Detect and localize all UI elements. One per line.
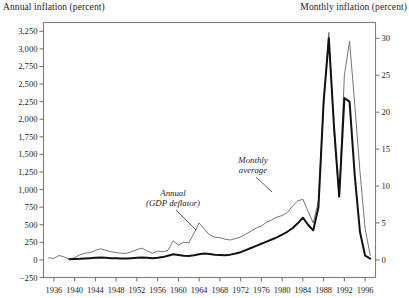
x-tick-label: 1960	[170, 286, 187, 295]
x-axis-ticks: 1936194019441948195219561960196419681972…	[46, 278, 374, 295]
x-tick-label: 1956	[149, 286, 166, 295]
x-tick-label: 1944	[87, 286, 105, 295]
annotation-annual-line2: (GDP deflator)	[146, 198, 200, 208]
x-tick-label: 1976	[253, 286, 270, 295]
x-tick-label: 1988	[315, 286, 332, 295]
right-axis-ticks: 051015202530	[376, 33, 391, 265]
left-tick-label: 2,250	[18, 97, 37, 107]
inflation-chart-figure: Annual inflation (percent) Monthly infla…	[0, 0, 409, 298]
right-tick-label: 0	[382, 255, 386, 265]
left-tick-label: 1,000	[18, 185, 37, 195]
left-tick-label: 1,250	[18, 167, 37, 177]
left-tick-label: 2,750	[18, 61, 37, 71]
x-tick-label: 1952	[129, 286, 146, 295]
right-tick-label: 10	[382, 181, 391, 191]
x-tick-label: 1936	[46, 286, 63, 295]
x-tick-label: 1980	[274, 286, 291, 295]
annotation-annual-line1: Annual	[159, 188, 186, 198]
right-tick-label: 25	[382, 70, 391, 80]
left-axis-ticks: −25002505007501,0001,2501,5001,7502,0002…	[18, 26, 43, 282]
right-tick-label: 5	[382, 218, 386, 228]
left-tick-label: 3,000	[18, 44, 37, 54]
x-tick-label: 1984	[295, 286, 313, 295]
x-tick-label: 1972	[232, 286, 249, 295]
plot-frame	[44, 23, 376, 278]
left-tick-label: 750	[25, 202, 38, 212]
x-tick-label: 1968	[212, 286, 229, 295]
annotation-annual-leader-line	[176, 210, 196, 230]
annotation-monthly-line1: Monthly	[237, 155, 267, 165]
x-tick-label: 1996	[357, 286, 374, 295]
left-tick-label: 2,500	[18, 79, 37, 89]
left-tick-label: −250	[20, 273, 38, 283]
annotation-monthly-leader-line	[256, 177, 272, 192]
x-tick-label: 1992	[336, 286, 353, 295]
right-tick-label: 15	[382, 144, 391, 154]
left-tick-label: 2,000	[18, 114, 37, 124]
x-tick-label: 1964	[191, 286, 209, 295]
left-tick-label: 250	[25, 237, 38, 247]
x-tick-label: 1940	[66, 286, 83, 295]
left-tick-label: 1,750	[18, 132, 37, 142]
right-tick-label: 30	[382, 33, 391, 43]
series-annual-gdp-deflator	[69, 38, 370, 259]
x-tick-label: 1948	[108, 286, 125, 295]
plot-area: −25002505007501,0001,2501,5001,7502,0002…	[0, 0, 409, 298]
annotation-monthly-line2: average	[239, 165, 267, 175]
left-tick-label: 3,250	[18, 26, 37, 36]
left-tick-label: 1,500	[18, 149, 37, 159]
left-tick-label: 0	[33, 255, 37, 265]
left-tick-label: 500	[25, 220, 38, 230]
right-tick-label: 20	[382, 107, 391, 117]
